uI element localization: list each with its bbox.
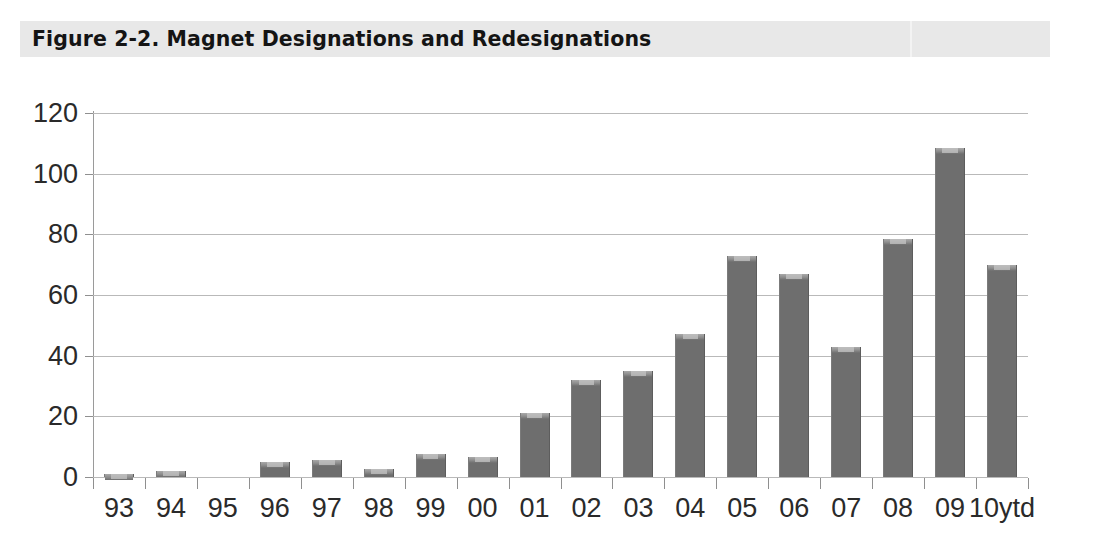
bar-slot bbox=[353, 113, 405, 477]
x-tick-mark bbox=[561, 478, 562, 489]
x-tick-mark bbox=[249, 478, 250, 489]
bar-slot bbox=[405, 113, 457, 477]
bar-08[interactable] bbox=[883, 239, 913, 477]
bar-chart: 020406080100120 939495969798990001020304… bbox=[0, 75, 1096, 560]
y-tick-label: 40 bbox=[0, 343, 78, 370]
x-tick-label-10ytd: 10ytd bbox=[950, 495, 1054, 522]
y-tick-label: 120 bbox=[0, 100, 78, 127]
bar-05[interactable] bbox=[727, 256, 757, 477]
bar-slot bbox=[509, 113, 561, 477]
x-tick-mark bbox=[768, 478, 769, 489]
y-tick-label: 60 bbox=[0, 282, 78, 309]
bar-01[interactable] bbox=[520, 413, 550, 477]
bar-slot bbox=[561, 113, 613, 477]
x-tick-mark bbox=[509, 478, 510, 489]
x-tick-mark bbox=[612, 478, 613, 489]
bar-93[interactable] bbox=[104, 474, 134, 477]
bar-04[interactable] bbox=[675, 334, 705, 477]
x-tick-mark bbox=[93, 478, 94, 489]
bar-slot bbox=[145, 113, 197, 477]
bar-slot bbox=[924, 113, 976, 477]
bar-06[interactable] bbox=[779, 274, 809, 477]
bar-00[interactable] bbox=[468, 457, 498, 477]
title-band-seam bbox=[910, 21, 912, 57]
y-tick-label: 0 bbox=[0, 464, 78, 491]
bar-09[interactable] bbox=[935, 148, 965, 477]
bar-slot bbox=[197, 113, 249, 477]
plot-area bbox=[93, 113, 1028, 477]
bar-97[interactable] bbox=[312, 460, 342, 477]
bar-slot bbox=[301, 113, 353, 477]
bar-slot bbox=[768, 113, 820, 477]
bar-slot bbox=[612, 113, 664, 477]
x-tick-mark bbox=[197, 478, 198, 489]
bar-99[interactable] bbox=[416, 454, 446, 477]
bar-slot bbox=[664, 113, 716, 477]
x-tick-mark bbox=[353, 478, 354, 489]
x-tick-mark bbox=[716, 478, 717, 489]
bar-slot bbox=[976, 113, 1028, 477]
bar-slot bbox=[249, 113, 301, 477]
page-title: Figure 2-2. Magnet Designations and Rede… bbox=[32, 27, 651, 51]
bar-02[interactable] bbox=[571, 380, 601, 477]
x-tick-mark bbox=[301, 478, 302, 489]
bar-slot bbox=[820, 113, 872, 477]
bar-96[interactable] bbox=[260, 462, 290, 477]
bar-slot bbox=[872, 113, 924, 477]
x-tick-mark bbox=[976, 478, 977, 489]
x-tick-mark bbox=[457, 478, 458, 489]
x-tick-mark bbox=[924, 478, 925, 489]
y-tick-label: 80 bbox=[0, 221, 78, 248]
y-tick-label: 20 bbox=[0, 403, 78, 430]
bar-slot bbox=[716, 113, 768, 477]
y-tick-label: 100 bbox=[0, 161, 78, 188]
x-tick-mark bbox=[405, 478, 406, 489]
x-tick-mark bbox=[664, 478, 665, 489]
x-tick-mark bbox=[820, 478, 821, 489]
bar-98[interactable] bbox=[364, 469, 394, 477]
bar-07[interactable] bbox=[831, 347, 861, 477]
x-tick-mark bbox=[872, 478, 873, 489]
x-tick-mark bbox=[1028, 478, 1029, 489]
bar-03[interactable] bbox=[623, 371, 653, 477]
bar-slot bbox=[93, 113, 145, 477]
bar-slot bbox=[457, 113, 509, 477]
x-tick-mark bbox=[145, 478, 146, 489]
figure-title-band: Figure 2-2. Magnet Designations and Rede… bbox=[20, 21, 1050, 57]
bar-10ytd[interactable] bbox=[987, 265, 1017, 477]
bar-94[interactable] bbox=[156, 471, 186, 477]
